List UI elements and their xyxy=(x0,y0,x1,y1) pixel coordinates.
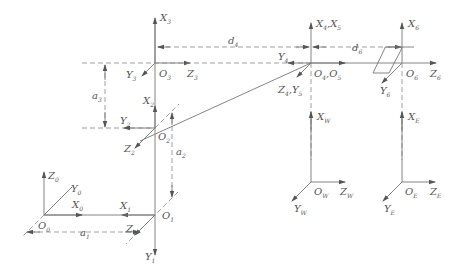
svg-text:OW: OW xyxy=(314,186,329,199)
svg-text:Z1: Z1 xyxy=(125,223,137,236)
svg-text:Y2: Y2 xyxy=(120,115,131,128)
svg-text:Y6: Y6 xyxy=(380,85,391,98)
svg-text:X3: X3 xyxy=(159,12,171,25)
frame-w: XW OW ZW YW xyxy=(292,111,354,216)
svg-text:d4: d4 xyxy=(228,35,238,48)
svg-text:X6: X6 xyxy=(407,18,419,31)
svg-text:Y4: Y4 xyxy=(278,51,289,64)
frame-1: X1 Z1 Y1 O1 xyxy=(119,192,178,264)
svg-text:O1: O1 xyxy=(162,210,174,223)
frame-6: X6 O6 Z6 Y6 xyxy=(373,18,441,160)
svg-text:Z2: Z2 xyxy=(123,143,135,156)
svg-text:X1: X1 xyxy=(119,200,131,213)
svg-text:YW: YW xyxy=(294,203,308,216)
svg-text:O3: O3 xyxy=(159,68,171,81)
svg-text:Y0: Y0 xyxy=(71,183,82,196)
svg-text:a1: a1 xyxy=(80,227,90,240)
svg-text:YE: YE xyxy=(384,203,396,216)
svg-text:ZE: ZE xyxy=(429,186,442,199)
svg-text:Z4,Y5: Z4,Y5 xyxy=(277,84,303,97)
svg-text:a3: a3 xyxy=(92,90,102,103)
dimension-d4: d4 xyxy=(158,35,309,48)
svg-text:ZW: ZW xyxy=(339,186,354,199)
svg-text:O2: O2 xyxy=(158,131,170,144)
svg-text:XE: XE xyxy=(407,111,420,124)
dimension-a3: a3 xyxy=(92,65,105,127)
svg-text:Y1: Y1 xyxy=(145,251,155,264)
dimension-d6: d6 xyxy=(313,42,414,55)
svg-text:Y3: Y3 xyxy=(126,69,137,82)
svg-text:O4,O5: O4,O5 xyxy=(314,68,341,81)
robot-kinematic-diagram: X3 O3 Z3 Y3 a3 X2 Y2 Z2 O2 a2 X1 Z xyxy=(0,0,459,271)
svg-text:X0: X0 xyxy=(71,199,83,212)
end-effector-plate xyxy=(373,47,402,73)
frame-e: XE OE ZE YE xyxy=(383,111,442,216)
frame-4-5: X4,X5 Y4 Z4,Y5 O4,O5 xyxy=(277,18,341,160)
frame-2: X2 Y2 Z2 O2 xyxy=(120,95,179,156)
svg-text:O6: O6 xyxy=(406,68,418,81)
svg-text:O0: O0 xyxy=(38,220,50,233)
svg-text:Z3: Z3 xyxy=(186,68,198,81)
svg-text:X2: X2 xyxy=(142,95,154,108)
svg-text:X4,X5: X4,X5 xyxy=(315,18,341,31)
svg-text:OE: OE xyxy=(405,186,418,199)
frame-0: Z0 Y0 X0 O0 xyxy=(22,170,83,237)
svg-text:XW: XW xyxy=(316,111,331,124)
svg-text:a2: a2 xyxy=(176,146,186,159)
svg-text:Z6: Z6 xyxy=(429,68,441,81)
svg-text:Z0: Z0 xyxy=(47,170,59,183)
svg-text:d6: d6 xyxy=(352,42,362,55)
